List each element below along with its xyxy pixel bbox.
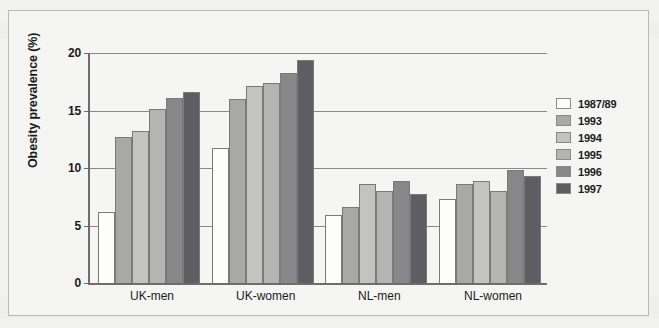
bar — [280, 73, 297, 283]
legend-item: 1994 — [556, 130, 616, 145]
scanned-page: Obesity prevalence (%) 05101520 UK-menUK… — [0, 0, 659, 328]
bar — [246, 86, 263, 283]
bar — [359, 184, 376, 283]
bar-group: NL-men — [325, 53, 433, 283]
x-axis-category-label: UK-women — [212, 289, 320, 303]
legend-label: 1996 — [578, 166, 602, 178]
legend-label: 1994 — [578, 132, 602, 144]
bar — [115, 137, 132, 283]
plot-area: 05101520 UK-menUK-womenNL-menNL-women — [88, 53, 547, 285]
x-axis-category-label: NL-women — [439, 289, 547, 303]
legend-label: 1987/89 — [578, 98, 616, 110]
y-axis-tick-label: 20 — [68, 46, 81, 60]
y-axis-tick-label: 0 — [75, 276, 81, 290]
bar — [439, 199, 456, 283]
legend-item: 1996 — [556, 164, 616, 179]
bar — [166, 98, 183, 283]
bar — [456, 184, 473, 283]
legend-item: 1997 — [556, 181, 616, 196]
legend: 1987/8919931994199519961997 — [556, 96, 616, 198]
legend-item: 1987/89 — [556, 96, 616, 111]
tick-mark — [84, 168, 90, 169]
bar — [132, 131, 149, 283]
legend-label: 1997 — [578, 183, 602, 195]
bar — [410, 194, 427, 283]
bar — [149, 109, 166, 283]
tick-mark — [84, 226, 90, 227]
bar — [212, 148, 229, 283]
legend-swatch — [556, 166, 571, 177]
bar — [490, 191, 507, 283]
bar — [524, 176, 541, 283]
y-axis-tick-label: 10 — [68, 161, 81, 175]
bar — [393, 181, 410, 283]
legend-swatch — [556, 132, 571, 143]
tick-mark — [84, 53, 90, 54]
y-axis-tick-label: 5 — [75, 219, 81, 233]
bar — [376, 191, 393, 283]
bar — [263, 83, 280, 283]
bar-group: NL-women — [439, 53, 547, 283]
legend-swatch — [556, 183, 571, 194]
legend-label: 1995 — [578, 149, 602, 161]
y-axis-title: Obesity prevalence (%) — [26, 33, 40, 168]
bar — [342, 207, 359, 283]
legend-swatch — [556, 98, 571, 109]
y-axis-tick-label: 15 — [68, 104, 81, 118]
bar — [229, 99, 246, 283]
legend-item: 1993 — [556, 113, 616, 128]
x-axis-category-label: UK-men — [98, 289, 206, 303]
legend-item: 1995 — [556, 147, 616, 162]
bar — [325, 215, 342, 283]
bar-group: UK-men — [98, 53, 206, 283]
tick-mark — [84, 283, 90, 284]
bar — [183, 92, 200, 283]
x-axis-category-label: NL-men — [325, 289, 433, 303]
bar — [473, 181, 490, 283]
bar — [297, 60, 314, 283]
tick-mark — [84, 111, 90, 112]
bar — [98, 212, 115, 283]
legend-label: 1993 — [578, 115, 602, 127]
bar — [507, 170, 524, 283]
legend-swatch — [556, 149, 571, 160]
legend-swatch — [556, 115, 571, 126]
bar-group: UK-women — [212, 53, 320, 283]
bar-chart: Obesity prevalence (%) 05101520 UK-menUK… — [0, 0, 659, 328]
